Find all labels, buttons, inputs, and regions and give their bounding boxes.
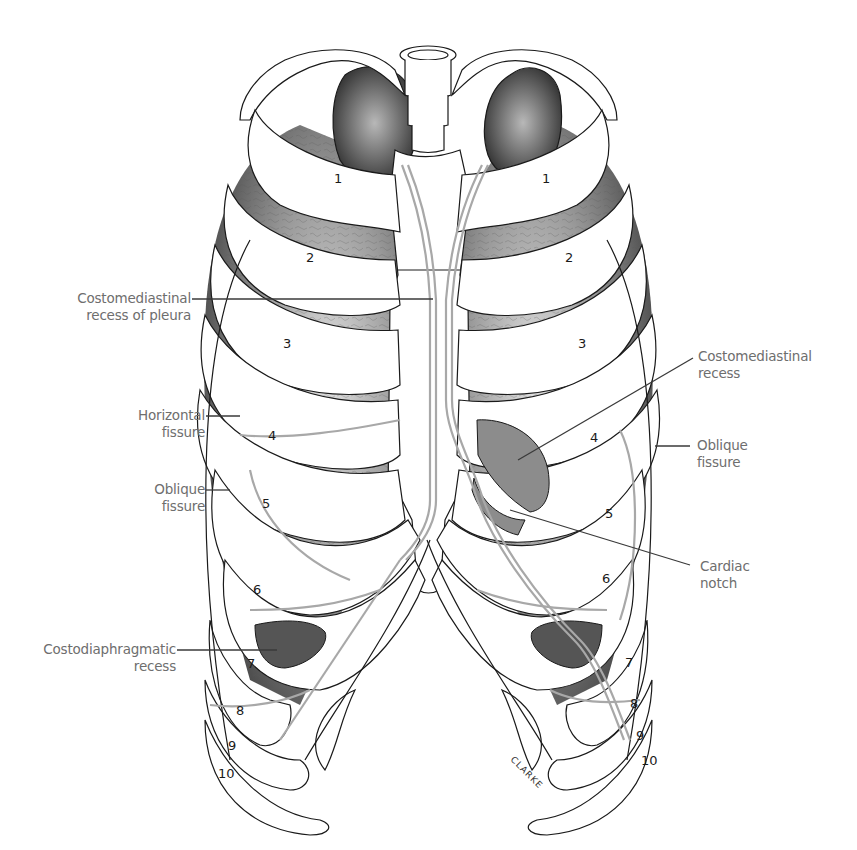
label-line-2: fissure [138,424,205,441]
svg-text:7: 7 [625,655,633,670]
label-line-2: fissure [697,454,748,471]
svg-text:8: 8 [236,703,244,718]
svg-text:4: 4 [590,430,598,445]
svg-text:1: 1 [334,171,342,186]
label-line-2: recess of pleura [77,307,191,324]
label-cardiac-notch: Cardiac notch [700,558,750,592]
svg-text:5: 5 [262,496,270,511]
label-costomediastinal-recess: Costomediastinal recess [698,348,812,382]
label-line-1: Costomediastinal [77,290,191,307]
label-line-2: fissure [154,498,205,515]
svg-text:10: 10 [218,766,235,781]
svg-text:9: 9 [636,728,644,743]
label-costodiaphragmatic-recess: Costodiaphragmatic recess [43,641,176,675]
label-line-2: recess [698,365,812,382]
label-horizontal-fissure: Horizontal fissure [138,407,205,441]
label-line-1: Costomediastinal [698,348,812,365]
label-line-1: Oblique [697,437,748,454]
label-line-2: recess [43,658,176,675]
svg-text:7: 7 [247,656,255,671]
svg-text:1: 1 [542,171,550,186]
label-line-1: Costodiaphragmatic [43,641,176,658]
label-line-1: Oblique [154,481,205,498]
label-line-1: Horizontal [138,407,205,424]
svg-text:3: 3 [578,336,586,351]
svg-text:8: 8 [630,696,638,711]
thorax-illustration: 1 2 3 4 5 6 7 8 9 10 1 2 3 4 5 6 7 8 9 1… [0,0,857,850]
svg-text:4: 4 [268,428,276,443]
label-oblique-fissure-left: Oblique fissure [154,481,205,515]
svg-text:2: 2 [565,250,573,265]
label-line-2: notch [700,575,750,592]
svg-text:3: 3 [283,336,291,351]
label-costomediastinal-recess-of-pleura: Costomediastinal recess of pleura [77,290,191,324]
svg-text:5: 5 [605,506,613,521]
label-oblique-fissure-right: Oblique fissure [697,437,748,471]
svg-text:10: 10 [641,753,658,768]
svg-text:6: 6 [253,582,261,597]
svg-text:6: 6 [602,571,610,586]
svg-text:9: 9 [228,738,236,753]
label-line-1: Cardiac [700,558,750,575]
svg-text:2: 2 [306,250,314,265]
